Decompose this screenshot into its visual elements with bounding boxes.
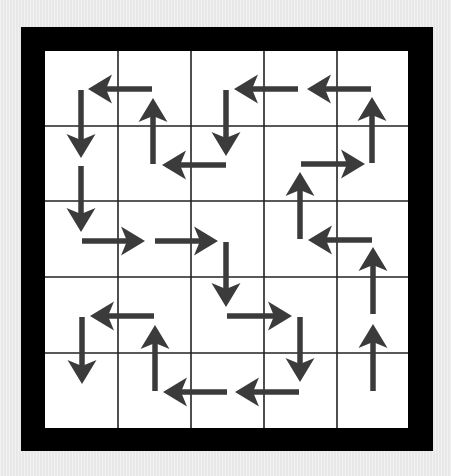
- arrow-shaft: [107, 313, 154, 319]
- arrow-shaft: [223, 90, 229, 139]
- arrow-shaft: [155, 238, 201, 244]
- arrow-shaft: [82, 238, 128, 244]
- arrow-shaft: [370, 341, 376, 391]
- arrow-shaft: [325, 237, 372, 243]
- arrow-shaft: [78, 90, 84, 141]
- arrow-shaft: [152, 342, 158, 391]
- arrow-shaft: [223, 242, 229, 290]
- arrow-shaft: [297, 189, 303, 239]
- arrow-shaft: [251, 86, 298, 92]
- arrow-shaft: [297, 317, 303, 365]
- puzzle-grid: [0, 0, 451, 476]
- arrow-shaft: [369, 114, 375, 163]
- arrow-shaft: [252, 389, 299, 395]
- arrow-shaft: [179, 162, 226, 168]
- arrow-shaft: [227, 313, 275, 319]
- arrow-shaft: [150, 115, 156, 164]
- arrow-shaft: [301, 161, 348, 167]
- arrow-shaft: [78, 166, 84, 215]
- arrow-shaft: [324, 86, 371, 92]
- arrow-shaft: [180, 389, 227, 395]
- arrow-shaft: [370, 264, 376, 314]
- arrow-shaft: [105, 86, 152, 92]
- arrow-shaft: [79, 317, 85, 367]
